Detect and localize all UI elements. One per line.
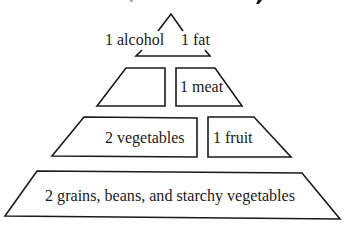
label-fruit: 1 fruit (213, 129, 253, 146)
tier-base: 2 grains, beans, and starchy vegetables (5, 171, 340, 219)
label-fat: 1 fat (181, 31, 210, 48)
label-alcohol: 1 alcohol (105, 31, 165, 48)
tier-apex: 1 alcohol 1 fat (105, 14, 210, 56)
label-meat: 1 meat (180, 78, 224, 95)
label-vegetables: 2 vegetables (105, 129, 185, 147)
label-grains: 2 grains, beans, and starchy vegetables (45, 187, 295, 205)
apex-caret (158, 14, 183, 31)
pyramid-canvas: 1 alcohol 1 fat 1 meat 2 vegetables 1 fr… (0, 0, 345, 226)
tier2-left-block (97, 68, 165, 106)
title-fragment (130, 0, 262, 4)
food-pyramid-diagram: 1 alcohol 1 fat 1 meat 2 vegetables 1 fr… (0, 0, 345, 226)
tier-3: 2 vegetables 1 fruit (52, 117, 291, 157)
tier-2: 1 meat (97, 68, 242, 106)
apex-bracket (136, 50, 210, 56)
